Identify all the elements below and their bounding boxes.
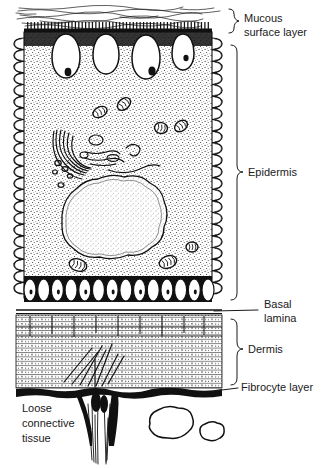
basal-vesicle-inclusion [194,290,197,295]
membrane-fold [212,271,222,283]
label-loose-connective-tissue-line3: tissue [22,432,51,444]
membrane-fold [14,236,24,248]
membrane-fold [14,73,24,85]
basal-vesicle [79,279,91,301]
basal-lamina-structure [16,310,222,314]
membrane-fold [14,108,24,120]
membrane-fold [14,178,24,190]
basal-vesicle [106,279,118,301]
membrane-fold [14,259,24,271]
membrane-fold [212,247,222,259]
membrane-fold [212,131,222,143]
fibrocyte-layer-structure [16,388,222,399]
diagram-canvas: Mucous surface layer Epidermis Basal lam… [0,0,335,468]
membrane-fold [212,73,222,85]
membrane-fold [14,38,24,50]
basal-vesicle [147,279,159,301]
basal-vesicle [92,279,104,301]
label-epidermis: Epidermis [248,166,297,178]
mucous-brace [229,9,239,33]
membrane-fold [212,213,222,225]
mucous-surface-layer-structure [16,5,220,28]
basal-vesicle-inclusion [84,290,87,295]
membrane-fold [212,96,222,108]
membrane-fold [212,189,222,201]
basal-vesicle [134,279,146,301]
basal-vesicle-inclusion [139,290,142,295]
membrane-fold [14,201,24,213]
label-mucous-surface-layer-line1: Mucous [244,12,283,24]
basal-vesicle-inclusion [166,290,169,295]
basal-vesicle [38,279,50,301]
dermis-brace [231,319,243,385]
membrane-fold [14,224,24,236]
basal-vesicle-inclusion [57,290,60,295]
label-dermis: Dermis [248,343,283,355]
label-basal-lamina-line1: Basal [264,298,292,310]
membrane-fold [212,154,222,166]
membrane-fold [14,247,24,259]
histology-diagram: Mucous surface layer Epidermis Basal lam… [0,0,335,468]
membrane-fold [212,108,222,120]
mucous-vesicle [93,34,119,74]
basal-vesicle-inclusion [30,290,33,295]
membrane-fold [212,85,222,97]
membrane-fold [212,236,222,248]
mitochondrion [186,242,198,252]
membrane-fold [212,38,222,50]
vesicle-inclusion [65,68,72,77]
basal-vesicle [175,279,187,301]
basal-vesicle [51,279,63,301]
membrane-fold [14,96,24,108]
dermis-structure [16,315,222,388]
membrane-fold [212,50,222,62]
label-basal-lamina-line2: lamina [264,312,297,324]
basal-vesicle-inclusion [112,290,115,295]
membrane-fold [212,166,222,178]
connective-tissue-cells [149,406,224,440]
membrane-fold [14,154,24,166]
membrane-fold [212,119,222,131]
membrane-fold [212,143,222,155]
membrane-fold [14,282,24,294]
basal-vesicle [161,279,173,301]
membrane-fold [14,166,24,178]
membrane-fold [14,143,24,155]
fibrocyte-leader [214,388,238,391]
label-loose-connective-tissue-line1: Loose [22,402,52,414]
membrane-fold [212,259,222,271]
membrane-fold [212,61,222,73]
nucleus [62,175,167,258]
membrane-fold [14,85,24,97]
label-mucous-surface-layer-line2: surface layer [244,26,307,38]
membrane-fold [14,131,24,143]
membrane-fold [212,224,222,236]
membrane-fold [14,189,24,201]
mucous-vesicle [132,35,160,79]
basal-vesicle-row [24,276,214,302]
membrane-fold [212,178,222,190]
basal-vesicle [120,279,132,301]
vesicle-inclusion [148,67,155,76]
vesicle-inclusion [183,55,188,62]
epidermis-brace [231,45,243,300]
membrane-fold [212,201,222,213]
membrane-fold [14,271,24,283]
basal-vesicle [65,279,77,301]
label-fibrocyte-layer: Fibrocyte layer [241,381,313,393]
basal-vesicle [24,279,36,301]
label-loose-connective-tissue-line2: connective [22,417,75,429]
basal-vesicle [202,279,214,301]
mucous-vesicle [172,34,194,70]
membrane-fold [14,50,24,62]
membrane-fold [14,213,24,225]
loose-connective-tissue-structure [75,392,224,464]
membrane-fold [14,61,24,73]
membrane-fold [14,119,24,131]
basal-vesicle [188,279,200,301]
